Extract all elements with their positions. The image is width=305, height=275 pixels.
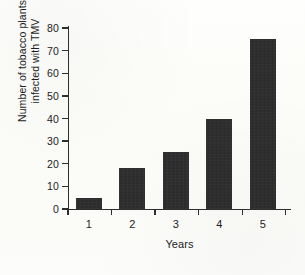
bar <box>119 168 145 209</box>
y-axis-tick <box>62 73 68 74</box>
x-axis-tick-label: 5 <box>243 219 283 230</box>
x-axis-tick-label: 3 <box>156 219 196 230</box>
y-axis-title: Number of tobacco plants infected with T… <box>16 0 42 147</box>
y-axis-tick <box>62 118 68 119</box>
x-axis-tick-label: 4 <box>199 219 239 230</box>
y-axis-tick-label: 20 <box>19 159 59 170</box>
y-axis-tick-label: 10 <box>19 181 59 192</box>
y-axis-tick <box>62 140 68 141</box>
y-axis-tick <box>62 50 68 51</box>
x-axis-title: Years <box>68 238 291 250</box>
bar <box>250 39 276 209</box>
y-axis-tick <box>62 186 68 187</box>
x-axis-tick-label: 2 <box>112 219 152 230</box>
y-axis-title-line-2: infected with TMV <box>29 0 42 147</box>
x-axis-tick <box>285 209 286 215</box>
y-axis-tick <box>62 95 68 96</box>
x-axis-tick-label: 1 <box>69 219 109 230</box>
x-axis-tick <box>67 209 68 215</box>
y-axis-tick-label: 0 <box>19 204 59 215</box>
bar <box>76 198 102 209</box>
bar-chart-figure: 01020304050607080 12345 Number of tobacc… <box>0 0 305 275</box>
bar <box>206 119 232 210</box>
y-axis-tick <box>62 163 68 164</box>
x-axis-tick <box>242 209 243 215</box>
y-axis-title-line-1: Number of tobacco plants <box>16 0 29 147</box>
plot-area: 01020304050607080 12345 Number of tobacc… <box>0 0 305 275</box>
x-axis-tick <box>154 209 155 215</box>
x-axis-tick <box>198 209 199 215</box>
y-axis-tick <box>62 27 68 28</box>
x-axis-tick <box>111 209 112 215</box>
bar <box>163 152 189 209</box>
y-axis-line <box>68 26 69 210</box>
